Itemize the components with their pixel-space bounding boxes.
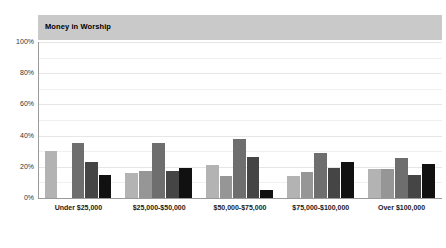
bar[interactable]: [179, 168, 192, 198]
bar[interactable]: [220, 176, 233, 198]
x-axis-category-label: Under $25,000: [38, 203, 119, 212]
bar[interactable]: [125, 173, 138, 198]
bar-group: [287, 42, 355, 198]
y-axis-tick-label: 20%: [2, 163, 34, 171]
bar[interactable]: [247, 157, 260, 198]
y-axis-labels: 100%80%60%40%20%0%: [0, 0, 34, 248]
bar[interactable]: [85, 162, 98, 198]
bar-group: [368, 42, 436, 198]
bar[interactable]: [206, 165, 219, 198]
x-axis-labels: Under $25,000$25,000-$50,000$50,000-$75,…: [38, 203, 442, 219]
bar[interactable]: [287, 176, 300, 198]
y-axis-tick-label: 60%: [2, 100, 34, 108]
bar[interactable]: [422, 164, 435, 198]
y-axis-tick-label: 40%: [2, 132, 34, 140]
bar[interactable]: [152, 143, 165, 198]
x-axis-category-label: $75,000-$100,000: [280, 203, 361, 212]
bar[interactable]: [45, 151, 58, 198]
y-axis-tick-label: 80%: [2, 69, 34, 77]
bar[interactable]: [301, 172, 314, 198]
chart-title: Money in Worship: [45, 22, 111, 31]
y-axis-tick-label: 0%: [2, 194, 34, 202]
x-axis-category-label: $25,000-$50,000: [119, 203, 200, 212]
bar[interactable]: [139, 171, 152, 198]
chart-container: Money in Worship 100%80%60%40%20%0% Unde…: [0, 0, 446, 248]
bar[interactable]: [72, 143, 85, 198]
bar[interactable]: [381, 169, 394, 198]
x-axis-category-label: $50,000-$75,000: [200, 203, 281, 212]
y-axis-tick-label: 100%: [2, 38, 34, 46]
bar[interactable]: [260, 190, 273, 198]
x-axis-line: [38, 198, 442, 199]
bar[interactable]: [395, 158, 408, 198]
bar[interactable]: [166, 171, 179, 198]
bar[interactable]: [99, 175, 112, 198]
bar[interactable]: [408, 175, 421, 198]
bar-group: [206, 42, 274, 198]
bar[interactable]: [233, 139, 246, 198]
bar[interactable]: [314, 153, 327, 198]
bar[interactable]: [341, 162, 354, 198]
bar[interactable]: [328, 168, 341, 198]
bar-group: [45, 42, 113, 198]
bar-group: [125, 42, 193, 198]
chart-title-band: Money in Worship: [38, 15, 442, 40]
bar[interactable]: [368, 169, 381, 198]
y-axis-line: [38, 42, 39, 199]
x-axis-category-label: Over $100,000: [361, 203, 442, 212]
